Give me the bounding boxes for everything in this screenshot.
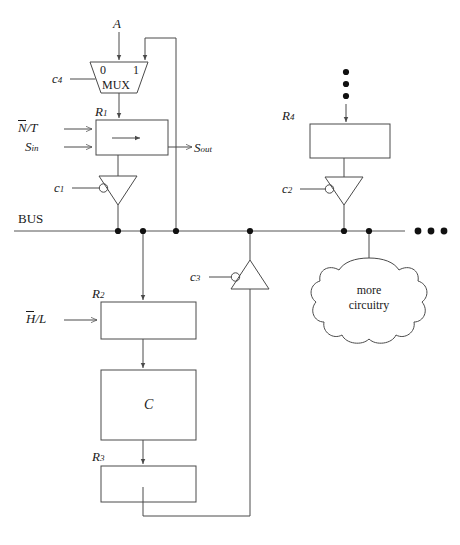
bus-ellipsis-dots — [415, 228, 448, 235]
c2-buffer-body — [325, 177, 363, 205]
mux-text: MUX — [102, 78, 130, 92]
c3-sub: 3 — [196, 273, 201, 283]
ellipsis-dot-3 — [441, 228, 448, 235]
c2-buffer-bubble — [325, 185, 333, 193]
label-h-l: H/L — [26, 312, 46, 325]
h-text: H — [26, 311, 35, 326]
label-mux-input-1: 1 — [133, 64, 139, 76]
cloud-line-1: more — [329, 283, 409, 298]
r3-text: R — [92, 449, 100, 464]
label-mux-input-0: 0 — [100, 64, 106, 76]
bus-node-c1 — [115, 228, 121, 234]
label-r3: R3 — [92, 450, 104, 463]
label-c-block: C — [144, 398, 153, 412]
cloud-line-2: circuitry — [329, 298, 409, 313]
vdot-2 — [343, 81, 349, 87]
label-c1: c1 — [54, 181, 64, 194]
vdot-3 — [343, 93, 349, 99]
label-h-overline-group: H — [26, 312, 35, 325]
sin-sub: in — [32, 143, 39, 153]
c1-buffer-body — [99, 176, 137, 205]
vdot-1 — [343, 69, 349, 75]
schematic-canvas — [0, 0, 460, 545]
label-a-input: A — [113, 17, 121, 30]
label-n-overline-group: N — [18, 121, 27, 134]
label-r1: R1 — [95, 105, 107, 118]
label-s-in: Sin — [25, 140, 39, 153]
n-overline-bar — [18, 120, 26, 121]
t-text: /T — [27, 120, 38, 135]
bus-node-cloud — [366, 228, 372, 234]
mux-in1-text: 1 — [133, 63, 139, 77]
r4-box — [310, 124, 390, 158]
c-block-text: C — [144, 397, 153, 412]
l-text: /L — [35, 311, 46, 326]
ellipsis-dot-2 — [428, 228, 435, 235]
mux-in0-text: 0 — [100, 63, 106, 77]
r2-text: R — [92, 286, 100, 301]
r3-sub: 3 — [100, 453, 105, 463]
c2-sub: 2 — [288, 185, 293, 195]
r2-sub: 2 — [100, 290, 105, 300]
label-c2: c2 — [282, 182, 292, 195]
label-n-t: N/T — [18, 121, 38, 134]
label-a-text: A — [113, 16, 121, 31]
label-r4: R4 — [282, 109, 294, 122]
c4-sub: 4 — [58, 75, 63, 85]
bus-node-feedback — [173, 228, 179, 234]
label-mux: MUX — [102, 79, 130, 91]
label-s-out: Sout — [194, 141, 212, 154]
n-text: N — [18, 120, 27, 135]
ellipsis-dot-1 — [415, 228, 422, 235]
r2-box — [101, 302, 196, 339]
r3-box — [101, 466, 196, 502]
label-c3: c3 — [190, 270, 200, 283]
bus-node-c2 — [341, 228, 347, 234]
sout-sub: out — [201, 144, 213, 154]
r4-text: R — [282, 108, 290, 123]
r1-text: R — [95, 104, 103, 119]
label-r2: R2 — [92, 287, 104, 300]
cloud-label: more circuitry — [329, 283, 409, 313]
bus-node-r2 — [140, 228, 146, 234]
label-c4: c4 — [52, 72, 62, 85]
wire-feedback-bus-to-mux1 — [145, 38, 176, 231]
c1-sub: 1 — [60, 184, 65, 194]
circuit-diagram: A 0 1 MUX c4 R1 N/T Sin Sout c1 R4 c2 BU — [0, 0, 460, 545]
r1-sub: 1 — [103, 108, 108, 118]
bus-node-c3 — [247, 228, 253, 234]
r4-vertical-dots — [343, 69, 349, 99]
bus-text: BUS — [18, 211, 43, 226]
h-overline-bar — [26, 311, 34, 312]
label-bus: BUS — [18, 212, 43, 225]
c3-buffer-body — [231, 260, 269, 289]
r4-sub: 4 — [290, 112, 295, 122]
